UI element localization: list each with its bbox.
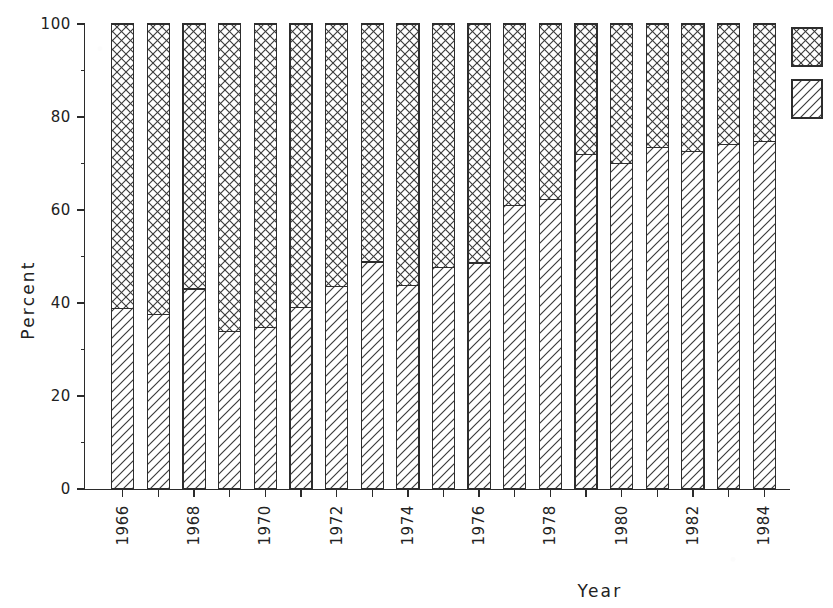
legend-item-diagonal[interactable] — [792, 80, 822, 118]
bar-segment-crosshatch — [504, 24, 526, 205]
bar-1968 — [183, 24, 205, 489]
bar-1983 — [718, 24, 740, 489]
x-tick-label: 1966 — [114, 505, 132, 546]
bar-1971 — [290, 24, 312, 489]
bar-1967 — [147, 24, 169, 489]
bar-segment-diagonal — [575, 154, 597, 489]
bar-segment-crosshatch — [112, 24, 134, 309]
bar-segment-crosshatch — [539, 24, 561, 199]
bar-segment-diagonal — [539, 199, 561, 489]
bar-segment-crosshatch — [290, 24, 312, 308]
bar-1972 — [326, 24, 348, 489]
bar-segment-diagonal — [112, 309, 134, 489]
bar-segment-diagonal — [361, 262, 383, 489]
bar-1974 — [397, 24, 419, 489]
bar-segment-crosshatch — [468, 24, 490, 263]
bar-segment-diagonal — [682, 152, 704, 489]
bar-segment-crosshatch — [361, 24, 383, 262]
bar-segment-diagonal — [504, 205, 526, 489]
y-tick: 80 — [51, 108, 85, 126]
bar-segment-crosshatch — [718, 24, 740, 145]
x-tick-label: 1984 — [755, 505, 773, 546]
bar-segment-diagonal — [254, 327, 276, 489]
x-axis-title: Year — [577, 581, 623, 601]
bar-group — [112, 24, 775, 489]
bar-segment-crosshatch — [575, 24, 597, 154]
y-tick-label: 20 — [51, 387, 71, 405]
y-tick-label: 80 — [51, 108, 71, 126]
bar-1976 — [468, 24, 490, 489]
bar-1979 — [575, 24, 597, 489]
bar-segment-crosshatch — [397, 24, 419, 285]
bar-segment-diagonal — [147, 314, 169, 489]
x-tick-group — [123, 489, 764, 497]
bar-segment-crosshatch — [326, 24, 348, 287]
legend-swatch-crosshatch — [792, 28, 822, 66]
bar-segment-crosshatch — [753, 24, 775, 141]
x-tick-label: 1976 — [470, 505, 488, 546]
bar-segment-crosshatch — [682, 24, 704, 152]
x-tick-label: 1982 — [684, 505, 702, 546]
x-tick-label: 1974 — [399, 505, 417, 546]
bar-1977 — [504, 24, 526, 489]
bar-segment-crosshatch — [646, 24, 668, 147]
x-tick-label: 1972 — [328, 505, 346, 546]
bar-1966 — [112, 24, 134, 489]
y-tick: 0 — [61, 480, 85, 498]
y-tick-label: 100 — [41, 15, 71, 33]
y-tick: 20 — [51, 387, 85, 405]
bar-segment-diagonal — [753, 141, 775, 489]
y-tick: 40 — [51, 294, 85, 312]
bar-1969 — [219, 24, 241, 489]
bar-segment-diagonal — [432, 268, 454, 489]
bar-segment-diagonal — [646, 147, 668, 489]
bar-1973 — [361, 24, 383, 489]
x-tick-label: 1980 — [613, 505, 631, 546]
legend-item-crosshatch[interactable] — [792, 28, 822, 66]
bar-1981 — [646, 24, 668, 489]
stacked-bar-chart: 020406080100 196619681970197219741976197… — [0, 0, 833, 608]
bar-1975 — [432, 24, 454, 489]
bar-1978 — [539, 24, 561, 489]
bar-1982 — [682, 24, 704, 489]
bar-segment-diagonal — [290, 308, 312, 489]
bar-segment-diagonal — [397, 285, 419, 489]
bar-segment-diagonal — [611, 164, 633, 490]
bar-segment-crosshatch — [611, 24, 633, 164]
chart-page: 020406080100 196619681970197219741976197… — [0, 0, 833, 608]
bar-segment-crosshatch — [432, 24, 454, 268]
bar-segment-diagonal — [718, 145, 740, 489]
x-tick-label-group: 1966196819701972197419761978198019821984 — [114, 505, 773, 546]
bar-segment-crosshatch — [219, 24, 241, 332]
bar-segment-diagonal — [326, 287, 348, 489]
bar-segment-crosshatch — [254, 24, 276, 327]
legend-swatch-diagonal — [792, 80, 822, 118]
y-tick-label: 0 — [61, 480, 71, 498]
legend — [792, 28, 822, 118]
y-tick-label: 60 — [51, 201, 71, 219]
y-tick: 100 — [41, 15, 85, 33]
bar-1980 — [611, 24, 633, 489]
bar-segment-diagonal — [219, 332, 241, 489]
y-axis-title: Percent — [18, 260, 38, 339]
bar-segment-crosshatch — [183, 24, 205, 289]
y-tick: 60 — [51, 201, 85, 219]
x-tick-label: 1978 — [541, 505, 559, 546]
x-tick-label: 1970 — [256, 505, 274, 546]
bar-1970 — [254, 24, 276, 489]
y-tick-group: 020406080100 — [41, 15, 85, 498]
bar-segment-crosshatch — [147, 24, 169, 314]
y-tick-label: 40 — [51, 294, 71, 312]
bar-1984 — [753, 24, 775, 489]
bar-segment-diagonal — [183, 289, 205, 489]
x-tick-label: 1968 — [185, 505, 203, 546]
bar-segment-diagonal — [468, 263, 490, 489]
